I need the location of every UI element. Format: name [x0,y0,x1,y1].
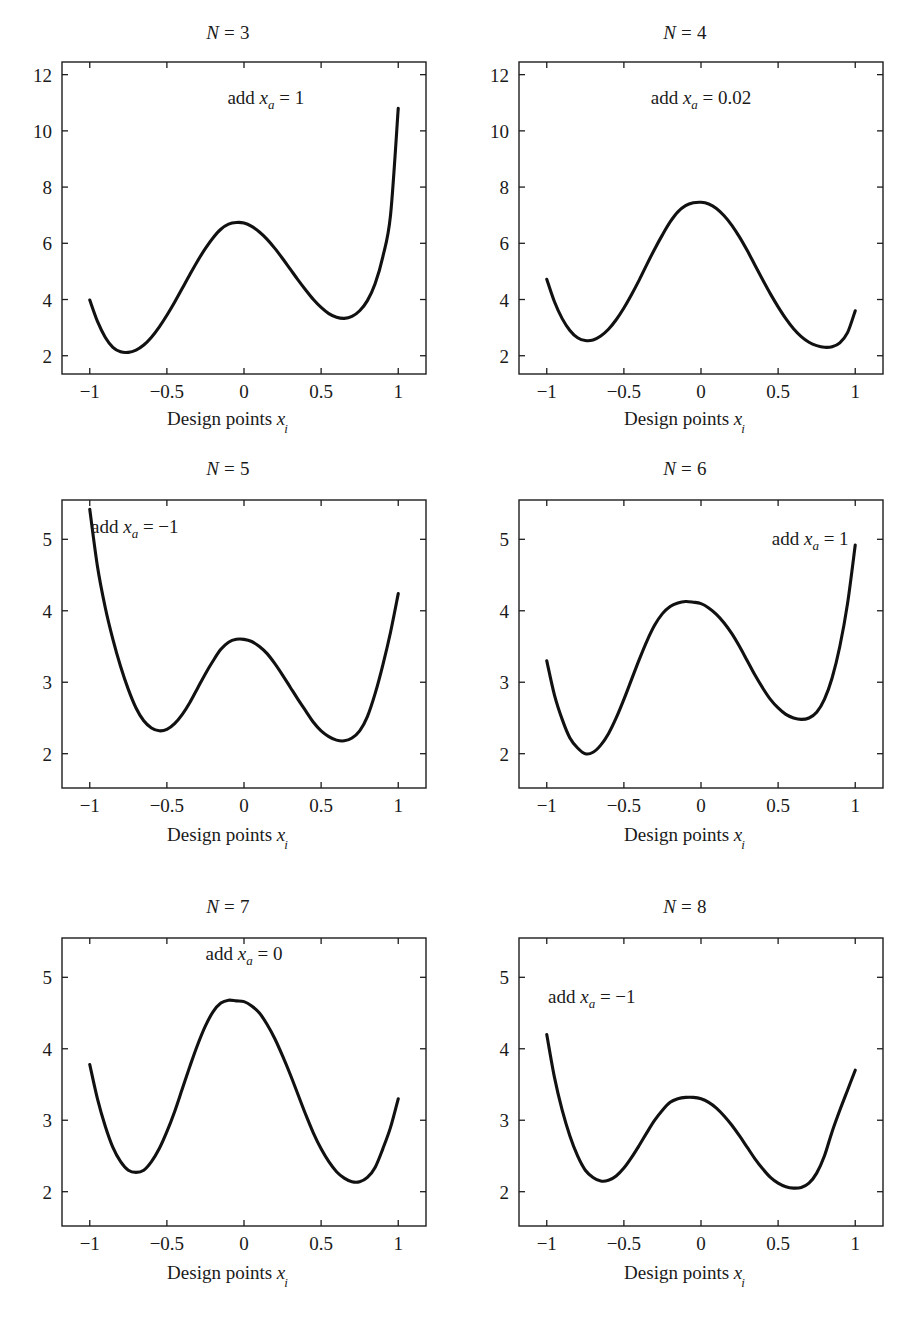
annotation-prefix: add [548,986,580,1007]
annotation-value: = 0 [253,943,283,964]
y-tick-label: 2 [43,744,53,765]
chart-panel-n3: N = 3−1−0.500.5124681012add xa = 1Design… [0,22,456,416]
panel-title-value: = 4 [676,22,707,43]
annotation-prefix: add [227,87,259,108]
panel-title-n3: N = 3 [0,22,456,44]
annotation-value: = −1 [595,986,635,1007]
y-tick-label: 4 [500,601,510,622]
x-tick-label: −1 [80,1233,100,1254]
x-tick-label: 0.5 [766,795,790,816]
y-tick-label: 10 [490,121,509,142]
plot-area-n8: −1−0.500.512345add xa = −1 [457,890,913,1270]
y-tick-label: 8 [500,177,510,198]
panel-title-n4: N = 4 [457,22,913,44]
x-tick-label: −0.5 [607,1233,641,1254]
y-tick-label: 3 [500,1110,510,1131]
panel-title-n6: N = 6 [457,458,913,480]
x-axis-label-subscript: i [741,1275,745,1290]
annotation-n5: add xa = −1 [91,516,179,541]
annotation-prefix: add [772,528,804,549]
x-axis-label-subscript: i [284,421,288,436]
y-tick-label: 5 [500,529,510,550]
y-tick-label: 2 [500,1182,510,1203]
annotation-value: = 0.02 [698,87,751,108]
x-tick-label: 0 [696,1233,706,1254]
y-tick-label: 4 [500,1039,510,1060]
x-tick-label: 1 [393,1233,403,1254]
x-tick-label: −0.5 [150,381,184,402]
x-tick-label: −1 [80,795,100,816]
panel-title-value: = 7 [219,896,250,917]
x-tick-label: 0 [239,381,249,402]
y-tick-label: 2 [43,1182,53,1203]
plot-area-n4: −1−0.500.5124681012add xa = 0.02 [457,22,913,416]
x-tick-label: −1 [537,1233,557,1254]
annotation-n7: add xa = 0 [206,943,283,968]
panel-title-value: = 8 [676,896,707,917]
data-curve-n8 [547,1034,855,1188]
y-tick-label: 4 [43,1039,53,1060]
x-tick-label: 0 [239,795,249,816]
x-axis-label-text: Design points [624,1262,729,1283]
panel-title-variable: N [663,896,676,917]
x-tick-label: 0.5 [766,1233,790,1254]
annotation-n3: add xa = 1 [227,87,304,112]
panel-title-n7: N = 7 [0,896,456,918]
x-tick-label: 1 [850,1233,860,1254]
y-tick-label: 12 [490,65,509,86]
y-tick-label: 5 [43,967,53,988]
y-tick-label: 8 [43,177,53,198]
x-axis-label-text: Design points [167,1262,272,1283]
y-tick-label: 5 [43,529,53,550]
chart-panel-n4: N = 4−1−0.500.5124681012add xa = 0.02Des… [457,22,913,416]
y-tick-label: 3 [43,672,53,693]
y-tick-label: 4 [43,601,53,622]
y-tick-label: 3 [43,1110,53,1131]
data-curve-n6 [547,545,855,754]
figure-panel-grid: N = 3−1−0.500.5124681012add xa = 1Design… [0,0,913,1332]
x-axis-label-n5: Design points xi [0,824,456,850]
x-tick-label: −0.5 [150,795,184,816]
panel-title-variable: N [663,458,676,479]
panel-title-variable: N [663,22,676,43]
panel-title-n8: N = 8 [457,896,913,918]
y-tick-label: 3 [500,672,510,693]
x-axis-label-n6: Design points xi [457,824,913,850]
x-tick-label: −1 [537,795,557,816]
panel-title-n5: N = 5 [0,458,456,480]
x-axis-label-n8: Design points xi [457,1262,913,1288]
x-tick-label: −0.5 [607,381,641,402]
x-tick-label: −1 [537,381,557,402]
panel-title-variable: N [206,896,219,917]
y-tick-label: 4 [500,290,510,311]
annotation-n6: add xa = 1 [772,528,849,553]
x-tick-label: −0.5 [607,795,641,816]
annotation-value: = 1 [275,87,305,108]
x-axis-label-text: Design points [167,824,272,845]
annotation-prefix: add [91,516,123,537]
annotation-n4: add xa = 0.02 [651,87,752,112]
x-axis-label-text: Design points [167,408,272,429]
annotation-n8: add xa = −1 [548,986,636,1011]
plot-area-n6: −1−0.500.512345add xa = 1 [457,452,913,832]
panel-title-value: = 6 [676,458,707,479]
data-curve-n5 [90,509,398,741]
axis-frame [62,500,426,788]
axis-frame [519,62,883,374]
x-tick-label: 0.5 [309,1233,333,1254]
x-tick-label: 1 [850,381,860,402]
y-tick-label: 6 [43,233,53,254]
x-axis-label-text: Design points [624,408,729,429]
x-axis-label-n3: Design points xi [0,408,456,434]
y-tick-label: 6 [500,233,510,254]
x-tick-label: 1 [393,381,403,402]
annotation-value: = −1 [138,516,178,537]
plot-area-n7: −1−0.500.512345add xa = 0 [0,890,456,1270]
x-axis-label-n7: Design points xi [0,1262,456,1288]
x-axis-label-subscript: i [741,837,745,852]
annotation-prefix: add [651,87,683,108]
x-tick-label: 0.5 [309,795,333,816]
x-tick-label: 1 [850,795,860,816]
x-tick-label: 0 [696,795,706,816]
x-tick-label: 0 [696,381,706,402]
